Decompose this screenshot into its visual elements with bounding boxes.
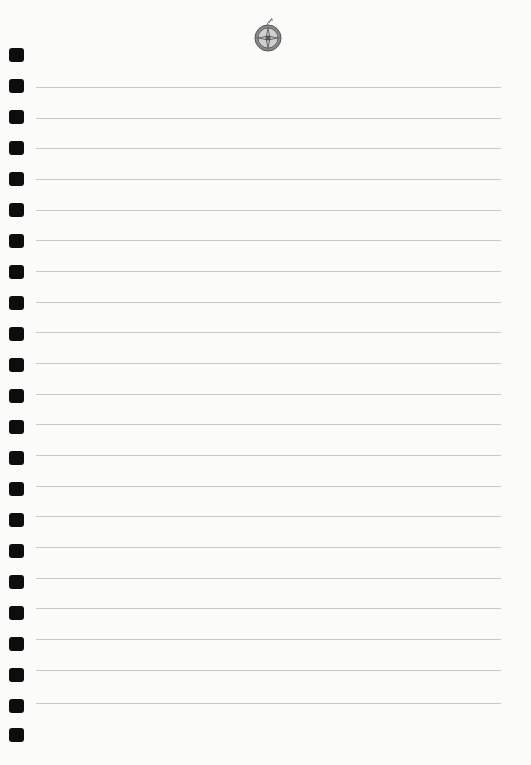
rule-line xyxy=(36,578,501,579)
compass-rose-emblem-icon xyxy=(253,17,283,53)
rule-line xyxy=(36,118,501,119)
binding-hole xyxy=(9,141,24,155)
rule-line xyxy=(36,639,501,640)
rule-line xyxy=(36,87,501,88)
binding-hole xyxy=(9,172,24,186)
binding-hole xyxy=(9,699,24,713)
binding-hole xyxy=(9,296,24,310)
binding-hole xyxy=(9,420,24,434)
notebook-page xyxy=(0,0,531,765)
rule-line xyxy=(36,608,501,609)
binding-hole xyxy=(9,327,24,341)
rule-line xyxy=(36,332,501,333)
binding-hole xyxy=(9,265,24,279)
rule-line xyxy=(36,394,501,395)
rule-line xyxy=(36,240,501,241)
binding-hole xyxy=(9,513,24,527)
binding-hole xyxy=(9,79,24,93)
binding-hole xyxy=(9,110,24,124)
rule-line xyxy=(36,424,501,425)
rule-line xyxy=(36,179,501,180)
binding-hole xyxy=(9,637,24,651)
rule-line xyxy=(36,363,501,364)
rule-line xyxy=(36,210,501,211)
binding-hole xyxy=(9,358,24,372)
rule-line xyxy=(36,670,501,671)
binding-hole xyxy=(9,389,24,403)
rule-line xyxy=(36,148,501,149)
binding-hole xyxy=(9,728,24,742)
rule-line xyxy=(36,271,501,272)
rule-line xyxy=(36,302,501,303)
binding-hole xyxy=(9,575,24,589)
binding-hole xyxy=(9,482,24,496)
binding-hole xyxy=(9,606,24,620)
binding-hole xyxy=(9,668,24,682)
rule-line xyxy=(36,547,501,548)
binding-hole xyxy=(9,234,24,248)
binding-hole xyxy=(9,544,24,558)
rule-line xyxy=(36,703,501,704)
binding-hole xyxy=(9,203,24,217)
binding-hole xyxy=(9,48,24,62)
rule-line xyxy=(36,455,501,456)
binding-hole xyxy=(9,451,24,465)
rule-line xyxy=(36,486,501,487)
rule-line xyxy=(36,516,501,517)
